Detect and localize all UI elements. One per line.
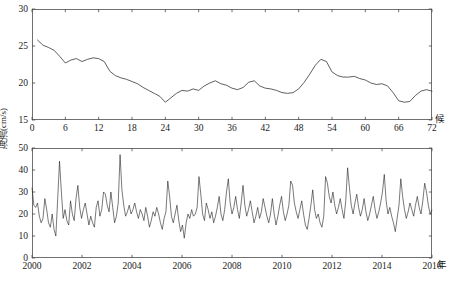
chart-panel-bottom xyxy=(32,148,432,258)
top-axis-frame xyxy=(32,9,431,119)
top-x-tick-label: 6 xyxy=(50,124,80,134)
top-tick-marks xyxy=(32,9,432,120)
top-x-tick-label: 54 xyxy=(317,124,347,134)
top-y-tick-label: 20 xyxy=(2,79,28,89)
bottom-x-tick-label: 2010 xyxy=(267,262,297,272)
top-plot-svg xyxy=(32,9,432,120)
top-x-tick-label: 36 xyxy=(217,124,247,134)
top-x-unit-label: 候 xyxy=(435,115,445,125)
top-x-tick-label: 48 xyxy=(284,124,314,134)
bottom-y-tick-label: 40 xyxy=(2,166,28,176)
bottom-x-unit-label: 年 xyxy=(437,261,447,271)
top-y-tick-label: 25 xyxy=(2,42,28,52)
top-x-tick-label: 0 xyxy=(17,124,47,134)
top-x-tick-label: 42 xyxy=(250,124,280,134)
top-y-tick-label: 30 xyxy=(2,5,28,15)
top-x-tick-label: 72 xyxy=(417,124,447,134)
bottom-x-tick-label: 2014 xyxy=(367,262,397,272)
bottom-x-tick-label: 2008 xyxy=(217,262,247,272)
bottom-y-tick-label: 50 xyxy=(2,144,28,154)
bottom-y-tick-label: 20 xyxy=(2,210,28,220)
top-x-tick-label: 66 xyxy=(384,124,414,134)
figure-container: 海流(cm/s) 15202530 0612182430364248546066… xyxy=(0,0,451,286)
top-x-tick-label: 18 xyxy=(117,124,147,134)
top-data-line xyxy=(38,40,432,102)
bottom-x-tick-label: 2012 xyxy=(317,262,347,272)
bottom-data-line xyxy=(32,155,432,239)
bottom-x-tick-label: 2000 xyxy=(17,262,47,272)
bottom-plot-svg xyxy=(32,148,432,258)
bottom-x-tick-label: 2004 xyxy=(117,262,147,272)
top-x-tick-label: 30 xyxy=(184,124,214,134)
bottom-x-tick-label: 2002 xyxy=(67,262,97,272)
chart-panel-top xyxy=(32,9,432,120)
bottom-y-tick-label: 10 xyxy=(2,232,28,242)
top-x-tick-label: 24 xyxy=(150,124,180,134)
bottom-y-tick-label: 30 xyxy=(2,188,28,198)
top-x-tick-label: 12 xyxy=(84,124,114,134)
top-x-tick-label: 60 xyxy=(350,124,380,134)
bottom-x-tick-label: 2006 xyxy=(167,262,197,272)
